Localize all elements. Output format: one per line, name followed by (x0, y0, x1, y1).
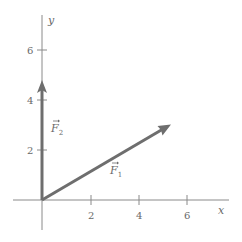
vector-arrow-icon (58, 120, 60, 123)
y-tick-label-2: 2 (27, 145, 33, 156)
vector-diagram: 2 4 6 2 4 6 y x (0, 0, 242, 242)
x-tick-2: 2 (88, 195, 94, 221)
x-tick-label-2: 2 (88, 210, 94, 221)
x-axis-label: x (218, 204, 225, 217)
svg-text:F2: F2 (50, 122, 63, 137)
f2-subscript: 2 (59, 129, 63, 137)
y-tick-6: 6 (27, 45, 47, 56)
x-tick-4: 4 (136, 195, 142, 221)
y-tick-label-6: 6 (27, 45, 33, 56)
vector-f2 (37, 80, 47, 200)
vector-label-f2: F2 (50, 120, 63, 138)
vector-label-f1: F1 (109, 162, 122, 180)
x-tick-label-4: 4 (136, 210, 142, 221)
x-tick-label-6: 6 (184, 210, 190, 221)
svg-text:F1: F1 (109, 164, 122, 179)
y-tick-label-4: 4 (27, 95, 33, 106)
y-axis-label: y (47, 14, 55, 27)
f2-symbol: F (50, 122, 59, 135)
y-tick-2: 2 (27, 145, 47, 156)
x-tick-6: 6 (184, 195, 190, 221)
y-tick-4: 4 (27, 95, 47, 106)
f1-symbol: F (109, 164, 118, 177)
vector-arrow-icon (117, 162, 119, 165)
f1-subscript: 1 (118, 171, 122, 179)
